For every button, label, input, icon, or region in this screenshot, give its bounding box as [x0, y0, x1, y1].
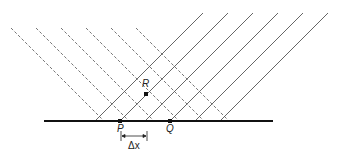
point-r-marker — [144, 92, 148, 96]
dashed-ray-1 — [11, 28, 104, 121]
dashed-ray-6 — [136, 28, 229, 121]
label-r: R — [142, 79, 149, 89]
reflected-solid-rays — [95, 13, 328, 121]
dashed-ray-4 — [86, 28, 179, 121]
dashed-ray-3 — [61, 28, 154, 121]
label-q: Q — [166, 124, 174, 134]
incident-dashed-rays — [11, 28, 229, 121]
dashed-ray-5 — [111, 28, 204, 121]
label-p: P — [117, 124, 124, 134]
wavefront-diagram — [0, 0, 340, 160]
label-delta-x: Δx — [128, 141, 140, 151]
dashed-ray-2 — [36, 28, 129, 121]
